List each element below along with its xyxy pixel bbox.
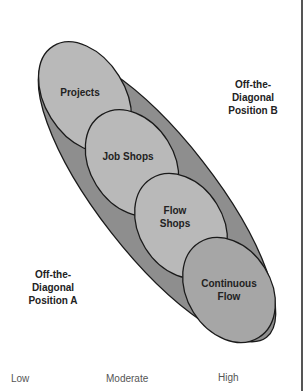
label-flow-shops-line1: Flow bbox=[164, 205, 187, 216]
off-diagonal-position-b-label: Off-the- Diagonal Position B bbox=[218, 78, 288, 117]
off-diagonal-b-line3: Position B bbox=[218, 104, 288, 117]
label-continuous-flow-line1: Continuous bbox=[201, 278, 257, 289]
label-flow-shops-line2: Shops bbox=[160, 218, 191, 229]
off-diagonal-b-line2: Diagonal bbox=[218, 91, 288, 104]
x-axis-tick-moderate: Moderate bbox=[106, 373, 148, 384]
x-axis-tick-low: Low bbox=[11, 373, 29, 384]
label-projects: Projects bbox=[60, 87, 100, 98]
product-process-matrix-diagram: Projects Job Shops Flow Shops Continuous… bbox=[0, 0, 306, 391]
off-diagonal-a-line1: Off-the- bbox=[18, 268, 88, 281]
frame-right-border bbox=[301, 0, 303, 391]
x-axis-tick-high: High bbox=[218, 372, 239, 383]
label-continuous-flow-line2: Flow bbox=[218, 291, 241, 302]
off-diagonal-a-line3: Position A bbox=[18, 294, 88, 307]
off-diagonal-a-line2: Diagonal bbox=[18, 281, 88, 294]
off-diagonal-position-a-label: Off-the- Diagonal Position A bbox=[18, 268, 88, 307]
label-job-shops: Job Shops bbox=[102, 151, 154, 162]
off-diagonal-b-line1: Off-the- bbox=[218, 78, 288, 91]
